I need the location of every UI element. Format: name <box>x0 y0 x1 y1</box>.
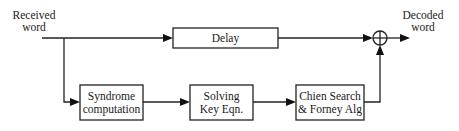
output-label-line1: Decoded <box>403 9 444 21</box>
arrowhead-chien <box>286 98 296 106</box>
arrowhead-adder-left <box>363 34 373 42</box>
input-to-syndrome-wire <box>64 38 73 102</box>
chien-label-line1: Chien Search <box>299 90 361 102</box>
solving-label-line1: Solving <box>204 90 240 103</box>
xor-adder <box>373 31 387 45</box>
arrowhead-solving <box>180 98 190 106</box>
delay-label: Delay <box>212 32 240 45</box>
syndrome-label-line2: computation <box>83 103 141 116</box>
decoder-block-diagram: Received word Decoded word Delay Syndrom… <box>0 0 459 131</box>
solving-label-line2: Key Eqn. <box>200 103 244 116</box>
arrowhead-syndrome <box>70 98 80 106</box>
chien-label-line2: & Forney Alg <box>298 103 362 116</box>
arrowhead-output <box>400 34 410 42</box>
arrowhead-adder-bottom <box>376 45 384 55</box>
syndrome-label-line1: Syndrome <box>88 90 135 103</box>
output-label-line2: word <box>411 21 435 33</box>
arrowhead-delay <box>163 34 173 42</box>
input-label-line2: word <box>22 21 46 33</box>
input-label-line1: Received <box>13 9 56 21</box>
chien-to-adder-wire <box>364 53 380 102</box>
